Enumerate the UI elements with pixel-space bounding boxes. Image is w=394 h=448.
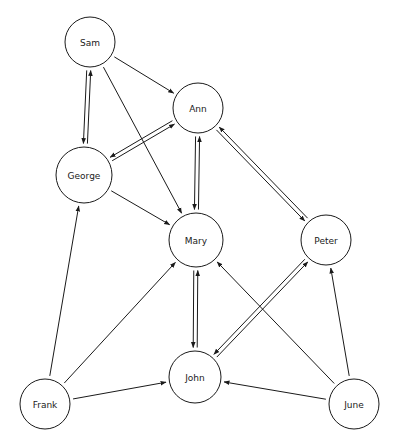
node-label-june: June bbox=[343, 400, 364, 410]
edge-george-to-mary bbox=[111, 191, 169, 225]
node-layer: SamAnnGeorgeMaryPeterJohnFrankJune bbox=[20, 17, 379, 429]
edge-june-to-mary bbox=[217, 262, 334, 384]
edge-john-to-mary bbox=[197, 271, 198, 348]
graph-node-mary[interactable]: Mary bbox=[169, 213, 223, 267]
node-label-george: George bbox=[68, 171, 101, 181]
graph-node-peter[interactable]: Peter bbox=[301, 215, 351, 265]
edge-ann-to-mary bbox=[194, 136, 195, 209]
edge-frank-to-mary bbox=[64, 262, 175, 383]
node-label-sam: Sam bbox=[80, 38, 100, 48]
edge-george-to-ann bbox=[112, 124, 174, 161]
node-label-frank: Frank bbox=[33, 400, 58, 410]
graph-node-john[interactable]: John bbox=[169, 351, 221, 403]
edge-june-to-peter bbox=[331, 268, 349, 376]
node-label-ann: Ann bbox=[189, 104, 207, 114]
node-label-mary: Mary bbox=[185, 236, 208, 246]
network-diagram: SamAnnGeorgeMaryPeterJohnFrankJune bbox=[0, 0, 394, 448]
edge-peter-to-ann bbox=[219, 127, 307, 218]
graph-node-sam[interactable]: Sam bbox=[65, 17, 115, 67]
edge-george-to-sam bbox=[87, 71, 90, 144]
edge-june-to-john bbox=[224, 382, 326, 399]
graph-node-frank[interactable]: Frank bbox=[20, 379, 70, 429]
edge-mary-to-ann bbox=[198, 137, 199, 210]
graph-node-june[interactable]: June bbox=[329, 379, 379, 429]
node-label-john: John bbox=[184, 373, 205, 383]
edge-sam-to-mary bbox=[103, 67, 181, 213]
node-label-peter: Peter bbox=[314, 236, 338, 246]
network-canvas: SamAnnGeorgeMaryPeterJohnFrankJune bbox=[0, 0, 394, 448]
graph-node-george[interactable]: George bbox=[56, 147, 112, 203]
edge-ann-to-peter bbox=[216, 130, 304, 221]
graph-node-ann[interactable]: Ann bbox=[173, 83, 223, 133]
edge-frank-to-john bbox=[73, 382, 166, 399]
edge-sam-to-ann bbox=[114, 57, 173, 93]
edge-frank-to-george bbox=[50, 206, 79, 376]
edge-mary-to-john bbox=[193, 270, 194, 347]
edge-sam-to-george bbox=[83, 70, 86, 143]
edge-ann-to-george bbox=[110, 121, 172, 158]
